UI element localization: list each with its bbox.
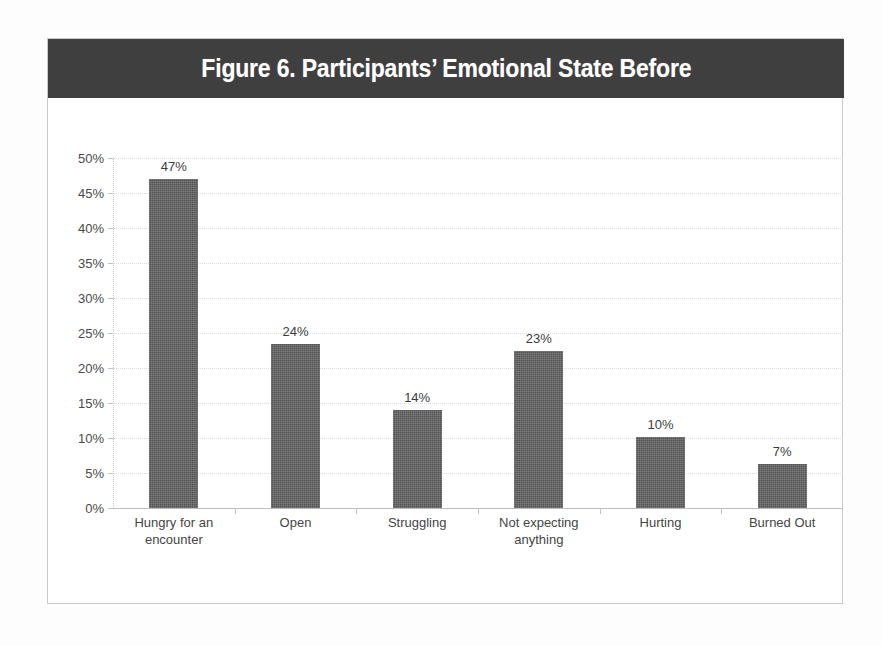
- chart-frame: Figure 6. Participants’ Emotional State …: [47, 38, 843, 604]
- bar-value-label: 7%: [773, 444, 792, 459]
- x-axis-category-label: Hurting: [601, 514, 721, 531]
- bar: [758, 464, 807, 508]
- bar: [149, 179, 198, 508]
- bar-value-label: 14%: [404, 390, 430, 405]
- bar: [271, 344, 320, 508]
- x-axis-category-label: Hungry for anencounter: [114, 514, 234, 548]
- y-axis-tick: [108, 333, 113, 334]
- y-axis-tick: [108, 473, 113, 474]
- y-axis-tick-label: 35%: [78, 256, 104, 271]
- x-axis-category-label: Struggling: [357, 514, 477, 531]
- gridline: [113, 473, 843, 474]
- y-axis-tick: [108, 403, 113, 404]
- y-axis-tick-label: 20%: [78, 361, 104, 376]
- gridline: [113, 263, 843, 264]
- bar-value-label: 23%: [526, 331, 552, 346]
- x-axis-category-label: Burned Out: [722, 514, 842, 531]
- gridline: [113, 158, 843, 159]
- y-axis-tick: [108, 438, 113, 439]
- y-axis-tick: [108, 228, 113, 229]
- gridline: [113, 228, 843, 229]
- gridline: [113, 403, 843, 404]
- gridline: [113, 438, 843, 439]
- y-axis-tick-label: 0%: [85, 501, 104, 516]
- gridline: [113, 193, 843, 194]
- bar-value-label: 47%: [161, 159, 187, 174]
- page-background: Figure 6. Participants’ Emotional State …: [0, 0, 882, 646]
- y-axis-tick-label: 50%: [78, 151, 104, 166]
- y-axis-tick: [108, 263, 113, 264]
- plot-area: 0%5%10%15%20%25%30%35%40%45%50% 47%24%14…: [113, 158, 843, 508]
- gridline: [113, 368, 843, 369]
- y-axis-tick-label: 15%: [78, 396, 104, 411]
- bar: [393, 410, 442, 508]
- bar: [636, 437, 685, 508]
- y-axis-tick: [108, 298, 113, 299]
- y-axis-tick: [108, 368, 113, 369]
- y-axis-tick: [108, 193, 113, 194]
- y-axis-tick-label: 5%: [85, 466, 104, 481]
- y-axis-tick: [108, 508, 113, 509]
- y-axis-tick: [108, 158, 113, 159]
- y-axis-tick-label: 45%: [78, 186, 104, 201]
- bar-value-label: 10%: [647, 417, 673, 432]
- bar-value-label: 24%: [282, 324, 308, 339]
- gridline: [113, 333, 843, 334]
- y-axis-tick-label: 10%: [78, 431, 104, 446]
- gridline: [113, 298, 843, 299]
- page-title: Figure 6. Participants’ Emotional State …: [201, 54, 691, 83]
- y-axis-tick-label: 25%: [78, 326, 104, 341]
- y-axis-tick-label: 40%: [78, 221, 104, 236]
- bar: [514, 351, 563, 508]
- y-axis-tick-label: 30%: [78, 291, 104, 306]
- x-axis-category-label: Not expectinganything: [479, 514, 599, 548]
- x-axis-category-label: Open: [236, 514, 356, 531]
- figure-title-bar: Figure 6. Participants’ Emotional State …: [48, 39, 844, 98]
